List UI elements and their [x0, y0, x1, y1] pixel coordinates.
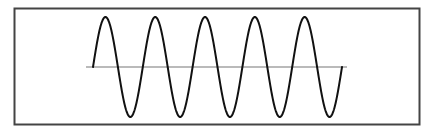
- diagram-svg: [0, 0, 433, 134]
- sine-wave-diagram: [0, 0, 433, 134]
